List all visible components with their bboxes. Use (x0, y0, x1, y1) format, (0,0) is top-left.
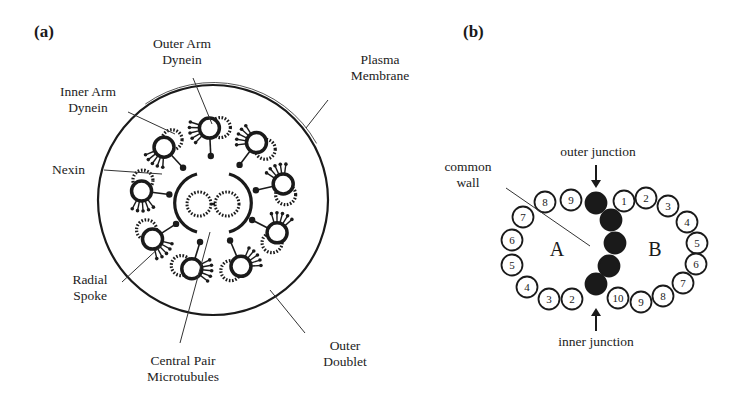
a-tubule-protofilament: 6 (502, 230, 523, 251)
b-tubule-protofilament: 3 (658, 196, 679, 217)
svg-text:10: 10 (613, 292, 625, 304)
svg-text:2: 2 (569, 293, 575, 305)
label-plasma-membrane: Plasma Membrane (340, 52, 420, 84)
common-wall-protofilament (601, 210, 622, 231)
label-central-pair: Central Pair Microtubules (128, 353, 238, 385)
b-tubule-protofilament: 8 (653, 286, 674, 307)
b-tubule-protofilament: 9 (631, 292, 652, 313)
b-tubule-protofilament: 4 (677, 212, 698, 233)
svg-text:4: 4 (684, 216, 690, 228)
label-inner-junction: inner junction (546, 334, 646, 350)
svg-text:8: 8 (660, 290, 666, 302)
tubule-a-label: A (550, 238, 565, 260)
outer-doublet (235, 124, 275, 168)
a-tubule-protofilament: 9 (561, 190, 582, 211)
axoneme-cross-section (98, 82, 328, 315)
a-tubule-protofilament: 4 (517, 277, 538, 298)
b-tubule-protofilament: 1 (614, 191, 635, 212)
tubule-b-label: B (648, 238, 661, 260)
a-tubule-protofilament: 2 (562, 289, 583, 310)
outer-doublet (130, 170, 172, 213)
label-inner-arm-dynein: Inner Arm Dynein (48, 84, 128, 116)
common-wall-protofilament (586, 193, 607, 214)
label-outer-junction: outer junction (548, 144, 648, 160)
svg-text:6: 6 (509, 234, 515, 246)
b-tubule-protofilament: 10 (608, 288, 629, 309)
svg-text:9: 9 (638, 296, 644, 308)
outer-doublet (253, 162, 296, 204)
a-tubule-protofilament: 3 (539, 289, 560, 310)
svg-text:3: 3 (665, 200, 671, 212)
b-tubule-protofilament: 5 (687, 233, 708, 254)
outer-doublet (137, 220, 180, 261)
panel-b-label: (b) (463, 22, 484, 42)
svg-text:8: 8 (542, 196, 548, 208)
outer-doublet (171, 239, 213, 283)
a-tubule-protofilament: 7 (513, 207, 534, 228)
svg-text:5: 5 (694, 237, 700, 249)
common-wall-protofilament (605, 233, 626, 254)
svg-text:5: 5 (509, 259, 515, 271)
svg-text:7: 7 (520, 211, 526, 223)
svg-text:4: 4 (524, 281, 530, 293)
label-common-wall: common wall (438, 159, 498, 191)
svg-text:1: 1 (621, 195, 627, 207)
svg-text:7: 7 (680, 277, 686, 289)
label-outer-arm-dynein: Outer Arm Dynein (142, 36, 222, 68)
label-nexin: Nexin (52, 162, 104, 178)
doublet-protofilament-diagram: 2345678912345678910AB (502, 165, 708, 331)
label-radial-spoke: Radial Spoke (60, 272, 120, 304)
svg-text:3: 3 (546, 293, 552, 305)
b-tubule-protofilament: 7 (673, 273, 694, 294)
label-outer-doublet: Outer Doublet (310, 338, 380, 370)
b-tubule-protofilament: 6 (686, 254, 707, 275)
svg-text:9: 9 (568, 194, 574, 206)
outer-doublet (221, 237, 263, 280)
outer-doublet (144, 130, 187, 171)
a-tubule-protofilament: 5 (502, 255, 523, 276)
outer-doublet (249, 211, 294, 253)
svg-text:6: 6 (693, 258, 699, 270)
b-tubule-protofilament: 2 (636, 188, 657, 209)
outer-doublet (188, 118, 231, 160)
central-pair (175, 174, 252, 232)
common-wall-protofilament (586, 274, 607, 295)
common-wall-protofilament (599, 256, 620, 277)
svg-text:2: 2 (643, 192, 649, 204)
